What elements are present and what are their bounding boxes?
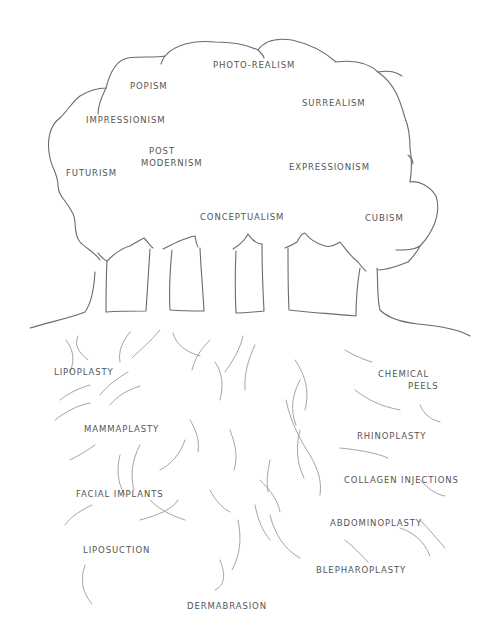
root-label-abdominoplasty: ABDOMINOPLASTY bbox=[330, 518, 422, 528]
root bbox=[210, 490, 230, 512]
root-label-lipoplasty: LIPOPLASTY bbox=[54, 367, 114, 377]
root-label-mammaplasty: MAMMAPLASTY bbox=[84, 424, 159, 434]
canopy-inner-curve bbox=[98, 88, 106, 114]
root bbox=[260, 480, 280, 512]
root bbox=[192, 340, 210, 370]
canopy-label-futurism: FUTURISM bbox=[66, 168, 117, 178]
root bbox=[297, 430, 304, 478]
canopy-label-surrealism: SURREALISM bbox=[302, 98, 366, 108]
root bbox=[400, 528, 430, 556]
canopy-inner-curve bbox=[258, 50, 264, 58]
root-label-blepharoplasty: BLEPHAROPLASTY bbox=[316, 565, 406, 575]
root bbox=[190, 420, 199, 452]
root bbox=[225, 336, 243, 372]
canopy-label-post: POST bbox=[149, 146, 175, 156]
root bbox=[345, 350, 372, 362]
canopy-label-photo-realism: PHOTO-REALISM bbox=[213, 60, 295, 70]
root bbox=[420, 405, 440, 422]
root bbox=[286, 400, 321, 495]
canopy-label-impressionism: IMPRESSIONISM bbox=[86, 115, 166, 125]
root bbox=[55, 403, 90, 420]
root bbox=[215, 560, 224, 590]
canopy-underside bbox=[98, 238, 153, 261]
root bbox=[255, 505, 270, 540]
root bbox=[132, 330, 160, 358]
trunk-left-edge bbox=[30, 272, 95, 328]
root bbox=[245, 345, 255, 390]
root bbox=[140, 500, 178, 520]
root bbox=[76, 336, 88, 360]
root-label-facial-implants: FACIAL IMPLANTS bbox=[76, 489, 164, 499]
canopy-underside bbox=[163, 236, 198, 249]
root bbox=[132, 445, 140, 490]
root bbox=[293, 380, 300, 425]
root bbox=[173, 333, 200, 356]
canopy-label-modernism: MODERNISM bbox=[141, 158, 203, 168]
root bbox=[232, 520, 240, 570]
root bbox=[60, 385, 90, 400]
root bbox=[270, 515, 300, 558]
root-label-collagen-injections: COLLAGEN INJECTIONS bbox=[344, 475, 459, 485]
trunk bbox=[170, 248, 204, 311]
tree-diagram: PHOTO-REALISM POPISM SURREALISM IMPRESSI… bbox=[0, 0, 498, 644]
root bbox=[119, 332, 130, 362]
root bbox=[230, 430, 236, 470]
root-label-peels: PEELS bbox=[408, 381, 439, 391]
canopy-inner-curve bbox=[161, 56, 165, 64]
root-label-liposuction: LIPOSUCTION bbox=[83, 545, 150, 555]
root bbox=[340, 448, 388, 458]
root bbox=[70, 445, 95, 460]
root bbox=[82, 565, 92, 604]
canopy-label-conceptualism: CONCEPTUALISM bbox=[200, 212, 284, 222]
trunk bbox=[235, 244, 264, 313]
root bbox=[160, 440, 185, 470]
canopy-label-popism: POPISM bbox=[130, 81, 168, 91]
canopy-underside bbox=[233, 234, 262, 249]
root bbox=[295, 360, 307, 410]
canopy-underside bbox=[285, 233, 366, 271]
root-label-chemical: CHEMICAL bbox=[378, 369, 429, 379]
canopy-label-expressionism: EXPRESSIONISM bbox=[289, 162, 370, 172]
root bbox=[215, 362, 222, 400]
trunk bbox=[288, 248, 360, 316]
root-label-rhinoplasty: RHINOPLASTY bbox=[357, 431, 426, 441]
root bbox=[110, 386, 140, 405]
root bbox=[267, 460, 270, 492]
root-label-dermabrasion: DERMABRASION bbox=[187, 601, 267, 611]
trunk bbox=[106, 249, 150, 312]
root bbox=[355, 390, 400, 410]
root bbox=[65, 505, 92, 525]
root bbox=[345, 540, 368, 562]
canopy-outline bbox=[48, 39, 437, 260]
trunk-right-edge bbox=[377, 268, 470, 336]
tree-drawing bbox=[0, 0, 498, 644]
canopy-label-cubism: CUBISM bbox=[365, 213, 404, 223]
